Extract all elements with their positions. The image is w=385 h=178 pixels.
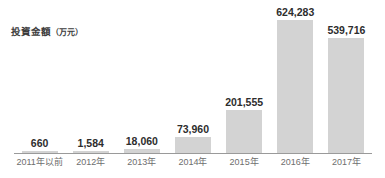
x-tick-label: 2017年: [332, 158, 361, 167]
bar-value-label: 660: [31, 138, 49, 149]
x-tick-label: 2012年: [76, 158, 105, 167]
x-tick-label: 2013年: [127, 158, 156, 167]
y-axis-caption: 投資金額（万元）: [11, 27, 83, 37]
bar[interactable]: [175, 137, 211, 153]
bar-value-label: 18,060: [126, 136, 158, 147]
x-tick-label: 2014年: [178, 158, 207, 167]
bar-value-label: 201,555: [225, 97, 263, 108]
x-tick-label: 2016年: [281, 158, 310, 167]
bar-value-label: 1,584: [78, 138, 104, 149]
bar-group: 539,7162017年: [321, 0, 372, 178]
bar-value-label: 539,716: [327, 25, 365, 36]
bar[interactable]: [22, 151, 58, 153]
bar-group: 73,9602014年: [167, 0, 218, 178]
y-axis-caption-unit: （万元）: [51, 28, 83, 37]
bar-group: 624,2832016年: [270, 0, 321, 178]
y-axis-caption-main: 投資金額: [11, 26, 51, 37]
bar[interactable]: [124, 149, 160, 153]
bar-chart: 6602011年以前1,5842012年18,0602013年73,960201…: [0, 0, 385, 178]
x-tick-label: 2015年: [230, 158, 259, 167]
bar-value-label: 624,283: [276, 7, 314, 18]
bar[interactable]: [73, 151, 109, 153]
bar[interactable]: [277, 20, 313, 153]
bar-group: 18,0602013年: [116, 0, 167, 178]
bar-group: 201,5552015年: [219, 0, 270, 178]
bar[interactable]: [328, 38, 364, 153]
x-tick-label: 2011年以前: [16, 158, 62, 167]
bar-value-label: 73,960: [177, 124, 209, 135]
bar[interactable]: [226, 110, 262, 153]
